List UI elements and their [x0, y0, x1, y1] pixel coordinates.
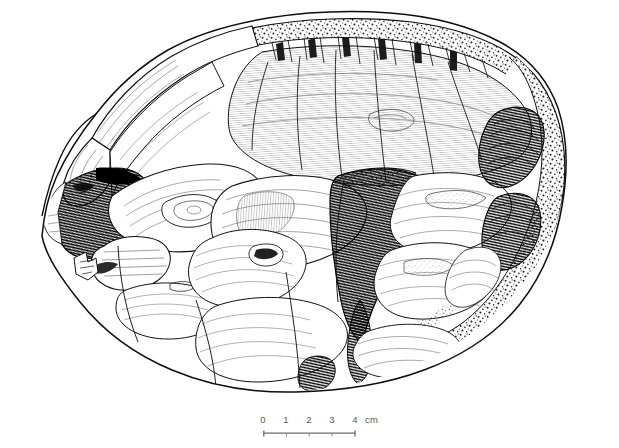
- scale-bar: 0 1 2 3 4 cm: [255, 414, 395, 444]
- figure-root: 0 1 2 3 4 cm: [0, 0, 619, 448]
- scale-tick-label-2: 2: [306, 414, 311, 425]
- scale-rule: [263, 430, 356, 437]
- scale-tick-label-1: 1: [283, 414, 288, 425]
- scale-tick-label-4: 4: [352, 414, 357, 425]
- scale-tick-labels: 0 1 2 3 4 cm: [255, 414, 395, 428]
- scale-unit-label: cm: [365, 414, 378, 425]
- artifact-drawing: [0, 0, 619, 448]
- scale-tick-label-0: 0: [260, 414, 265, 425]
- scale-tick-label-3: 3: [329, 414, 334, 425]
